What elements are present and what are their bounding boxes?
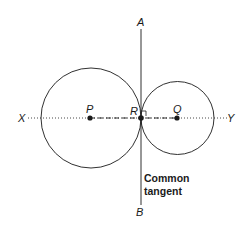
point-r	[138, 115, 144, 121]
annotation-line-2: tangent	[144, 185, 182, 197]
label-q: Q	[173, 103, 182, 115]
point-q	[174, 115, 179, 120]
label-r: R	[130, 105, 138, 117]
circles-diagram: A B X Y P Q R Common tangent	[0, 0, 247, 230]
annotation-line-1: Common	[144, 172, 190, 184]
label-p: P	[86, 103, 94, 115]
point-p	[87, 115, 92, 120]
label-a: A	[136, 16, 144, 28]
label-b: B	[136, 206, 143, 218]
label-y: Y	[227, 112, 235, 124]
label-x: X	[17, 112, 26, 124]
